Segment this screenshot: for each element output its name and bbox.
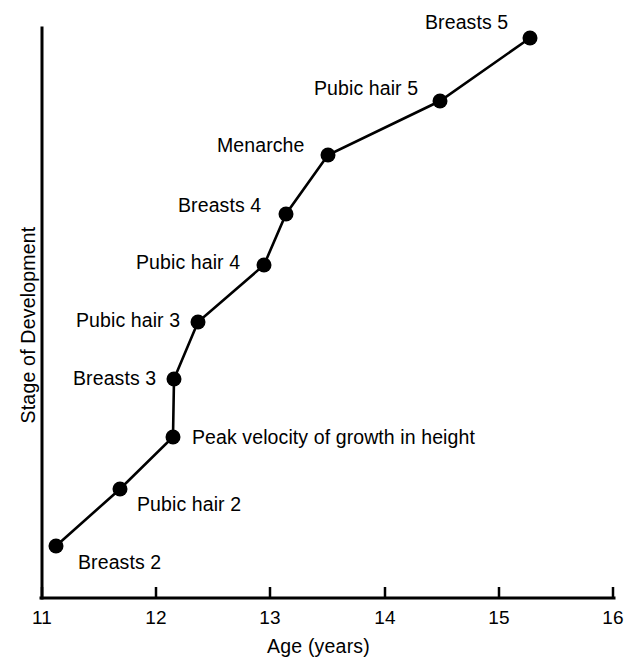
data-point-breasts-3[interactable]: [167, 372, 182, 387]
puberty-stage-chart: 11 12 13 14 15 16 Breasts 5 Pubic hair 5…: [0, 0, 637, 660]
point-label-pubic-hair-5: Pubic hair 5: [314, 78, 418, 98]
data-point-breasts-4[interactable]: [279, 207, 294, 222]
point-label-menarche: Menarche: [217, 135, 305, 155]
point-label-breasts-5: Breasts 5: [425, 12, 508, 32]
data-point-pubic-hair-4[interactable]: [257, 258, 272, 273]
development-trend-line: [56, 38, 530, 546]
data-point-menarche[interactable]: [321, 148, 336, 163]
point-label-pubic-hair-3: Pubic hair 3: [76, 310, 180, 330]
x-tick-label-15: 15: [479, 608, 519, 627]
x-tick-label-14: 14: [365, 608, 405, 627]
x-tick-label-13: 13: [250, 608, 290, 627]
data-point-pubic-hair-2[interactable]: [113, 482, 128, 497]
point-label-breasts-4: Breasts 4: [178, 195, 261, 215]
point-label-breasts-3: Breasts 3: [73, 368, 156, 388]
point-label-pubic-hair-2: Pubic hair 2: [137, 494, 241, 514]
data-point-pubic-hair-3[interactable]: [191, 315, 206, 330]
x-tick-label-16: 16: [593, 608, 633, 627]
data-point-breasts-2[interactable]: [49, 539, 64, 554]
y-axis-title: Stage of Development: [18, 215, 38, 435]
data-point-pubic-hair-5[interactable]: [433, 94, 448, 109]
data-point-peak-velocity[interactable]: [166, 430, 181, 445]
point-label-pubic-hair-4: Pubic hair 4: [136, 252, 240, 272]
point-label-breasts-2: Breasts 2: [78, 552, 161, 572]
x-axis-ticks: [42, 587, 613, 598]
point-label-peak-velocity: Peak velocity of growth in height: [192, 427, 475, 447]
data-point-breasts-5[interactable]: [523, 31, 538, 46]
data-point-markers: [49, 31, 538, 554]
x-tick-label-11: 11: [22, 608, 62, 627]
x-axis-title: Age (years): [0, 636, 637, 656]
x-tick-label-12: 12: [136, 608, 176, 627]
